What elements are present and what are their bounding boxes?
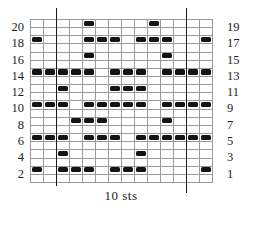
stitch-cell-empty <box>70 36 83 44</box>
stitch-cell-filled <box>148 134 161 142</box>
stitch-cell-empty <box>96 142 109 150</box>
stitch-cell-empty <box>187 36 200 44</box>
stitch-cell-empty <box>109 77 122 85</box>
stitch-cell-empty <box>187 118 200 126</box>
stitch-cell-filled <box>122 167 135 175</box>
stitch-cell-filled <box>109 36 122 44</box>
stitch-cell-empty <box>109 44 122 52</box>
stitch-cell-filled <box>31 101 44 109</box>
stitch-cell-empty <box>148 126 161 134</box>
row-number-left-18: 18 <box>12 35 29 51</box>
stitch-cell-empty <box>135 77 148 85</box>
stitch-cell-empty <box>83 93 96 101</box>
stitch-cell-empty <box>70 126 83 134</box>
stitch-cell-empty <box>83 126 96 134</box>
stitch-cell-filled <box>96 36 109 44</box>
row-number-right-15: 15 <box>222 52 240 68</box>
stitch-cell-empty <box>96 69 109 77</box>
stitch-cell-filled <box>148 36 161 44</box>
stitch-cell-empty <box>187 53 200 61</box>
stitch-cell-filled <box>83 134 96 142</box>
stitch-cell-filled <box>57 167 70 175</box>
stitch-cell-empty <box>83 175 96 183</box>
stitch-cell-empty <box>96 93 109 101</box>
stitch-cell-filled <box>70 167 83 175</box>
stitch-cell-empty <box>187 93 200 101</box>
stitch-cell-empty <box>200 175 213 183</box>
stitch-cell-empty <box>148 93 161 101</box>
stitch-cell-empty <box>70 28 83 36</box>
stitch-cell-filled <box>57 85 70 93</box>
stitch-cell-empty <box>122 118 135 126</box>
stitch-cell-empty <box>200 126 213 134</box>
stitch-cell-filled <box>31 69 44 77</box>
stitch-cell-empty <box>200 110 213 118</box>
stitch-cell-filled <box>161 101 174 109</box>
stitch-cell-empty <box>200 20 213 28</box>
stitch-cell-empty <box>161 20 174 28</box>
stitch-cell-empty <box>148 175 161 183</box>
stitch-cell-empty <box>135 126 148 134</box>
stitch-cell-empty <box>161 126 174 134</box>
stitch-cell-filled <box>200 101 213 109</box>
stitch-cell-empty <box>109 175 122 183</box>
stitch-cell-empty <box>200 61 213 69</box>
stitch-cell-empty <box>122 150 135 158</box>
stitch-cell-empty <box>122 36 135 44</box>
stitch-cell-empty <box>96 159 109 167</box>
stitch-cell-empty <box>70 159 83 167</box>
stitch-cell-filled <box>31 134 44 142</box>
stitch-cell-empty <box>31 142 44 150</box>
stitch-cell-empty <box>135 20 148 28</box>
stitch-cell-empty <box>70 101 83 109</box>
stitch-cell-empty <box>161 150 174 158</box>
stitch-cell-empty <box>148 118 161 126</box>
stitch-cell-filled <box>135 101 148 109</box>
stitch-cell-empty <box>109 126 122 134</box>
stitch-cell-filled <box>187 101 200 109</box>
stitch-cell-empty <box>148 142 161 150</box>
stitch-cell-empty <box>83 28 96 36</box>
stitch-cell-empty <box>161 61 174 69</box>
stitch-cell-filled <box>200 69 213 77</box>
stitch-cell-empty <box>57 77 70 85</box>
stitch-cell-filled <box>83 167 96 175</box>
row-number-left-16: 16 <box>12 52 29 68</box>
repeat-width-bracket <box>56 186 186 206</box>
stitch-cell-filled <box>83 53 96 61</box>
stitch-cell-empty <box>148 110 161 118</box>
stitch-cell-empty <box>148 101 161 109</box>
stitch-cell-empty <box>83 61 96 69</box>
stitch-cell-empty <box>135 159 148 167</box>
stitch-cell-empty <box>109 110 122 118</box>
stitch-cell-empty <box>96 85 109 93</box>
stitch-cell-empty <box>187 110 200 118</box>
stitch-cell-empty <box>83 159 96 167</box>
stitch-cell-empty <box>31 77 44 85</box>
stitch-cell-filled <box>161 53 174 61</box>
stitch-cell-empty <box>187 28 200 36</box>
stitch-cell-empty <box>31 110 44 118</box>
stitch-cell-filled <box>122 69 135 77</box>
stitch-cell-empty <box>31 20 44 28</box>
stitch-cell-empty <box>122 175 135 183</box>
stitch-cell-filled <box>83 20 96 28</box>
stitch-cell-filled <box>96 134 109 142</box>
stitch-cell-empty <box>96 61 109 69</box>
row-number-right-17: 17 <box>222 35 240 51</box>
row-number-right-7: 7 <box>222 117 233 133</box>
stitch-cell-filled <box>161 69 174 77</box>
stitch-cell-empty <box>148 167 161 175</box>
stitch-cell-empty <box>31 44 44 52</box>
stitch-cell-filled <box>187 134 200 142</box>
stitch-cell-empty <box>96 150 109 158</box>
row-number-right-1: 1 <box>222 166 233 182</box>
stitch-cell-filled <box>161 118 174 126</box>
stitch-cell-empty <box>187 85 200 93</box>
stitch-cell-empty <box>200 142 213 150</box>
stitch-cell-empty <box>161 44 174 52</box>
stitch-cell-filled <box>187 69 200 77</box>
stitch-cell-empty <box>187 20 200 28</box>
stitch-cell-empty <box>109 118 122 126</box>
stitch-cell-empty <box>31 159 44 167</box>
